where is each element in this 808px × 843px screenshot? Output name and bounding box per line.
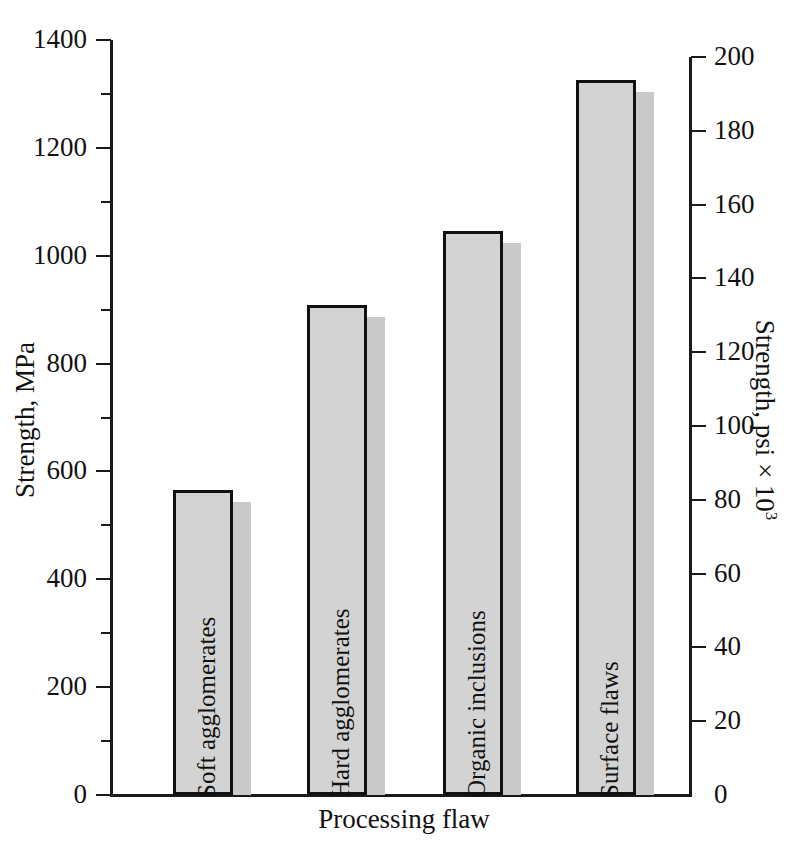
y-axis-left-minor-tick [101,524,111,526]
y-axis-left-tick [96,363,111,365]
bar-shadow [233,502,251,795]
y-axis-left-tick [96,578,111,580]
y-axis-left-tick-label: 200 [47,673,88,700]
y-axis-right-tick [691,130,706,132]
y-axis-left-tick-label: 600 [47,457,88,484]
x-axis-title: Processing flaw [0,806,808,833]
y-axis-left-minor-tick [101,309,111,311]
y-axis-left-minor-tick [101,632,111,634]
y-axis-left-minor-tick [101,201,111,203]
bar-shadow [636,92,654,795]
y-axis-left-minor-tick [101,93,111,95]
y-axis-right-tick [691,204,706,206]
bar-chart: 1400120010008006004002000 20018016014012… [0,0,808,843]
y-axis-right-title-text: Strength, psi × 10 [750,320,780,512]
y-axis-right-tick-label: 180 [714,117,755,144]
y-axis-left-tick-label: 1200 [33,134,87,161]
bar-category-label: Hard agglomerates [328,608,353,798]
y-axis-right-line [689,57,692,797]
y-axis-right-tick-label: 40 [714,633,741,660]
y-axis-left-tick [96,147,111,149]
y-axis-left-tick [96,794,111,796]
y-axis-right-tick-label: 100 [714,412,755,439]
bar-shadow [503,243,521,795]
y-axis-right-tick-label: 160 [714,191,755,218]
y-axis-left-tick-label: 0 [74,781,88,808]
y-axis-left-tick [96,39,111,41]
y-axis-right-tick-label: 20 [714,707,741,734]
y-axis-left-tick [96,470,111,472]
bar-shadow [367,317,385,795]
y-axis-right-tick [691,573,706,575]
y-axis-left-tick-label: 1400 [33,26,87,53]
y-axis-right-tick [691,351,706,353]
y-axis-right-title: Strength, psi × 103 [751,320,780,521]
y-axis-left-tick-label: 1000 [33,242,87,269]
y-axis-left-title: Strength, MPa [12,342,39,498]
y-axis-right-tick [691,720,706,722]
y-axis-right-tick-label: 60 [714,560,741,587]
y-axis-right-tick [691,56,706,58]
y-axis-left-tick-label: 800 [47,350,88,377]
y-axis-left-tick [96,686,111,688]
y-axis-left-minor-tick [101,417,111,419]
y-axis-right-tick-label: 120 [714,338,755,365]
y-axis-right-tick-label: 80 [714,486,741,513]
y-axis-left-tick-label: 400 [47,565,88,592]
y-axis-right-tick [691,646,706,648]
y-axis-left-minor-tick [101,740,111,742]
y-axis-left-line [110,40,113,797]
bar-category-label: Organic inclusions [464,610,489,798]
y-axis-right-tick-label: 140 [714,264,755,291]
bar-category-label: Surface flaws [597,661,622,798]
y-axis-right-tick [691,277,706,279]
y-axis-left-tick [96,255,111,257]
y-axis-right-tick [691,425,706,427]
y-axis-right-tick-label: 0 [714,781,728,808]
y-axis-right-title-exponent: 3 [762,512,781,521]
bar-category-label: Soft agglomerates [194,617,219,798]
y-axis-right-tick [691,499,706,501]
y-axis-right-tick-label: 200 [714,43,755,70]
